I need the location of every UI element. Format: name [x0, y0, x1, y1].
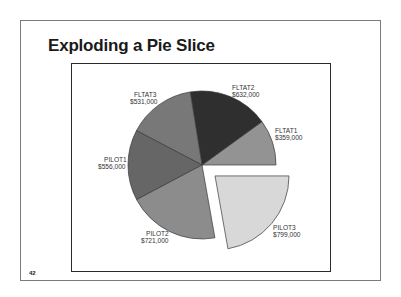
svg-text:PILOT3: PILOT3 — [273, 224, 296, 231]
svg-text:$556,000: $556,000 — [98, 163, 126, 170]
pie-slices — [128, 91, 289, 249]
svg-text:FLTAT3: FLTAT3 — [134, 91, 157, 98]
slice-label-pilot3: PILOT3 $799,000 — [273, 224, 301, 238]
svg-text:$721,000: $721,000 — [141, 237, 169, 244]
slice-label-fltat2: FLTAT2 $632,000 — [232, 84, 260, 98]
svg-text:FLTAT2: FLTAT2 — [232, 84, 255, 91]
pie-chart: FLTAT2 $632,000 FLTAT3 $531,000 FLTAT1 $… — [0, 0, 401, 297]
svg-text:PILOT2: PILOT2 — [146, 230, 169, 237]
slice-label-pilot1: PILOT1 $556,000 — [98, 156, 127, 170]
svg-text:FLTAT1: FLTAT1 — [275, 127, 298, 134]
slice-label-fltat3: FLTAT3 $531,000 — [130, 91, 158, 105]
svg-text:$359,000: $359,000 — [275, 134, 303, 141]
svg-text:$632,000: $632,000 — [232, 91, 260, 98]
svg-text:$531,000: $531,000 — [130, 98, 158, 105]
svg-text:$799,000: $799,000 — [273, 231, 301, 238]
slice-label-fltat1: FLTAT1 $359,000 — [275, 127, 303, 141]
slice-label-pilot2: PILOT2 $721,000 — [141, 230, 169, 244]
svg-text:PILOT1: PILOT1 — [104, 156, 127, 163]
